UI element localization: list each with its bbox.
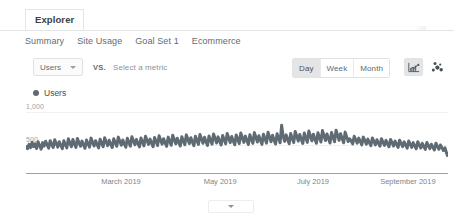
tab-explorer[interactable]: Explorer [25, 9, 84, 30]
x-axis-tick-july-2019: July 2019 [297, 177, 329, 186]
primary-metric-select[interactable]: Users [33, 58, 83, 76]
tab-strip: Explorer [0, 9, 462, 31]
chevron-down-icon [70, 66, 76, 69]
x-axis-line [26, 173, 448, 174]
users-over-time-chart: 1,000 500 March 2019 May 2019 July 2019 … [0, 100, 462, 192]
chart-type-buttons [404, 58, 447, 76]
subnav-item-summary[interactable]: Summary [25, 36, 64, 46]
line-chart-icon-button[interactable] [404, 58, 423, 76]
legend-color-dot [33, 90, 39, 96]
x-axis-tick-march-2019: March 2019 [101, 177, 141, 186]
granularity-day-button[interactable]: Day [293, 59, 321, 77]
subnav-item-ecommerce[interactable]: Ecommerce [192, 36, 241, 46]
x-axis-ticks: March 2019 May 2019 July 2019 September … [26, 177, 448, 189]
panel-collapse-handle[interactable] [208, 200, 254, 213]
users-series-line [26, 100, 448, 174]
vs-label: VS. [93, 63, 106, 72]
x-axis-tick-september-2019: September 2019 [380, 177, 435, 186]
analytics-explorer-panel: Explorer Summary Site Usage Goal Set 1 E… [0, 0, 462, 218]
subnav-item-goal-set-1[interactable]: Goal Set 1 [135, 36, 179, 46]
tab-strip-end-marker [414, 26, 426, 31]
chart-controls: Users VS. Select a metric Day Week Month [0, 58, 462, 80]
tab-strip-divider [0, 30, 454, 31]
legend-series-label: Users [44, 88, 66, 98]
subnav-item-site-usage[interactable]: Site Usage [77, 36, 122, 46]
motion-chart-icon-button[interactable] [428, 58, 447, 76]
x-axis-tick-may-2019: May 2019 [204, 177, 237, 186]
line-chart-icon [408, 62, 420, 73]
granularity-month-button[interactable]: Month [354, 59, 389, 77]
granularity-segmented-control: Day Week Month [292, 58, 390, 78]
motion-chart-icon [431, 61, 444, 73]
primary-metric-value: Users [40, 63, 61, 72]
granularity-week-button[interactable]: Week [321, 59, 355, 77]
subnav: Summary Site Usage Goal Set 1 Ecommerce [25, 36, 241, 46]
chart-plot-area [26, 100, 448, 174]
chart-legend: Users [33, 88, 66, 98]
chevron-down-icon [228, 205, 234, 208]
secondary-metric-select[interactable]: Select a metric [113, 63, 167, 72]
